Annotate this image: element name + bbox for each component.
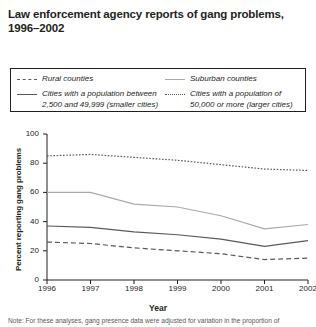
y-tick-label: 60 [17, 188, 39, 196]
series-line-rural-counties [47, 242, 308, 260]
y-tick-label: 80 [17, 159, 39, 167]
y-tick-label: 0 [17, 276, 39, 284]
series-line-larger-cities [47, 154, 308, 170]
y-tick-label: 100 [17, 130, 39, 138]
series-line-smaller-cities [47, 226, 308, 246]
x-tick-label: 1998 [117, 284, 151, 293]
x-tick-label: 1999 [161, 284, 195, 293]
x-axis-label: Year [0, 303, 316, 313]
series-line-suburban-counties [47, 192, 308, 229]
figure-note: Note: For these analyses, gang presence … [8, 317, 314, 327]
y-tick-label: 40 [17, 218, 39, 226]
x-tick-label: 1997 [74, 284, 108, 293]
x-tick-label: 2000 [204, 284, 238, 293]
y-tick-label: 20 [17, 247, 39, 255]
plot-area [0, 0, 316, 300]
chart-figure: Law enforcement agency reports of gang p… [0, 0, 316, 327]
x-tick-label: 2001 [248, 284, 282, 293]
x-tick-label: 2002 [291, 284, 316, 293]
x-tick-label: 1996 [30, 284, 64, 293]
